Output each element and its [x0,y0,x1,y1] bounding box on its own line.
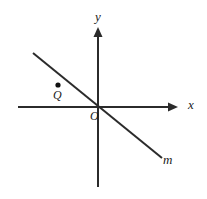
coordinate-plane-svg [0,0,207,199]
point-q-dot [55,82,60,87]
x-axis-arrow-icon [168,103,178,112]
origin-label: O [90,110,99,122]
line-m-label: m [163,153,172,166]
point-q-label: Q [53,89,62,101]
y-axis-arrow-icon [94,27,103,37]
coordinate-plane-figure: y x O Q m [0,0,207,199]
y-axis-label: y [95,10,101,23]
x-axis-label: x [188,98,194,111]
